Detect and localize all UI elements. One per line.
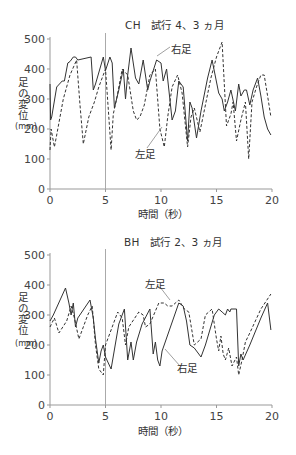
x-axis-label: 時間（秒） xyxy=(138,423,188,438)
x-tick-label: 10 xyxy=(154,410,168,423)
x-tick-label: 5 xyxy=(102,410,109,423)
annotation-left-foot: 左足 xyxy=(145,276,165,291)
y-axis-unit: (mm) xyxy=(15,339,37,348)
x-tick-label: 0 xyxy=(47,410,54,423)
y-tick-label: 400 xyxy=(24,279,45,292)
x-tick-label: 20 xyxy=(265,410,279,423)
y-tick-label: 500 xyxy=(24,249,45,262)
chart-bh-trial2: BH 試行 2、3 ヵ月 010020030040050005101520 足の… xyxy=(0,0,296,455)
y-axis-label: 足の変位 xyxy=(16,292,27,336)
annotation-right-foot: 右足 xyxy=(177,360,197,375)
y-tick-label: 0 xyxy=(38,399,45,412)
x-tick-label: 15 xyxy=(210,410,224,423)
chart-plot: 010020030040050005101520 xyxy=(0,0,296,455)
y-tick-label: 100 xyxy=(24,369,45,382)
